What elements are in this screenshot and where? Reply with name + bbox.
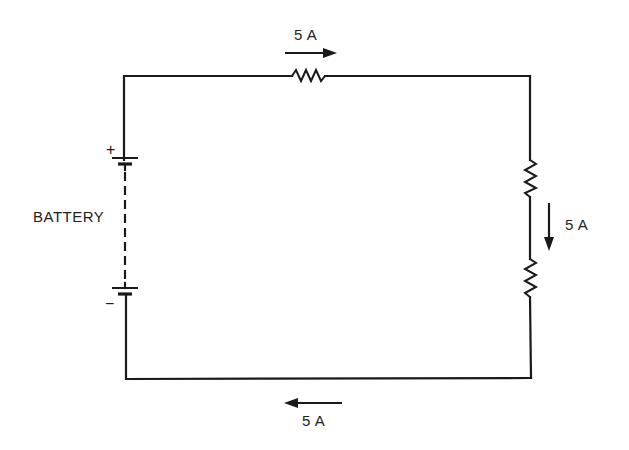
arrow-down-icon [544,237,554,251]
right-wire [525,76,536,378]
resistor-right-upper [525,160,536,197]
bottom-wire [126,294,531,379]
negative-sign: − [105,295,114,312]
current-arrow-top: 5 A [285,26,337,58]
positive-sign: + [106,141,115,158]
battery-symbol: + − BATTERY [33,141,138,312]
resistor-right-lower [525,259,536,297]
current-label-right: 5 A [565,216,588,233]
resistor-top [292,70,325,81]
battery-label: BATTERY [33,208,104,225]
current-label-top: 5 A [294,26,317,43]
arrow-left-icon [284,398,298,408]
current-arrow-right: 5 A [544,203,588,251]
current-label-bottom: 5 A [302,412,325,429]
current-arrow-bottom: 5 A [284,398,342,429]
series-circuit-diagram: + − BATTERY 5 A 5 A 5 A [0,0,629,450]
arrow-right-icon [323,48,337,58]
top-wire [124,70,530,160]
